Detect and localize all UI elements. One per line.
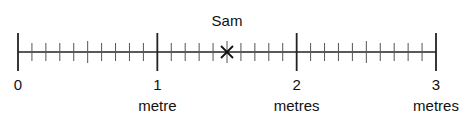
unit-label: metre	[138, 97, 176, 114]
tick-label: 0	[14, 76, 22, 93]
unit-label: metres	[413, 97, 459, 114]
tick-label: 1	[153, 76, 161, 93]
tick-label: 2	[292, 76, 300, 93]
marker-label: Sam	[212, 12, 243, 29]
unit-label: metres	[274, 97, 320, 114]
number-line: 01metre2metres3metresSam	[0, 0, 465, 121]
tick-label: 3	[432, 76, 440, 93]
